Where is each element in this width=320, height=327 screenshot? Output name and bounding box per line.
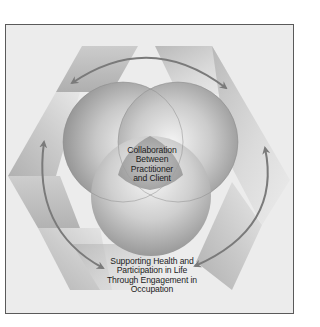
bottom-label: Supporting Health and Participation in L… (98, 257, 206, 295)
bottom-label-line-4: Occupation (98, 285, 206, 294)
center-label: Collaboration Between Practitioner and C… (122, 146, 182, 184)
center-label-line-4: and Client (122, 174, 182, 183)
